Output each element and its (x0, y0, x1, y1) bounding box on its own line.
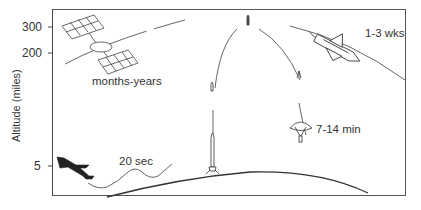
space-shuttle-icon (303, 20, 367, 72)
sounding-rocket-icon (206, 133, 219, 174)
rocket-trajectory (213, 29, 306, 170)
rocket-stage-icon (211, 15, 301, 91)
diagram-artwork (0, 0, 421, 210)
satellite-icon (62, 15, 138, 74)
aircraft-icon (57, 157, 94, 179)
parachute-capsule-icon (290, 122, 312, 142)
y-axis-ticks (48, 27, 52, 166)
